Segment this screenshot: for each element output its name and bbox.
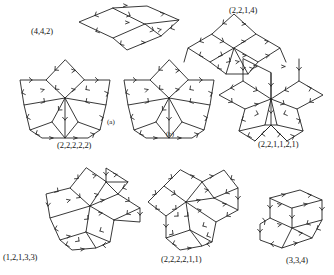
figure-334-caption: (3,3,4) xyxy=(286,256,308,265)
figure-334-graphic xyxy=(256,188,334,250)
figure-22222-a-sublabel: (a) xyxy=(107,119,115,126)
figure-221121-graphic xyxy=(215,55,327,143)
edge-arrowheads xyxy=(46,172,142,251)
figure-sheet: (4,4,2) (2,2,1,4) xyxy=(0,0,334,275)
figure-22222-b-sublabel: (b) xyxy=(166,131,174,138)
figure-222211-graphic xyxy=(146,168,254,252)
figure-442-caption: (4,4,2) xyxy=(31,27,53,36)
figure-22222-b-graphic xyxy=(116,58,222,140)
figure-2214-caption: (2,2,1,4) xyxy=(229,6,257,15)
figure-12133-caption: (1,2,1,3,3) xyxy=(3,253,37,262)
figure-12133-graphic xyxy=(44,166,158,250)
figure-442-graphic xyxy=(75,4,185,52)
figure-22222-a-graphic xyxy=(12,58,118,140)
figure-22222-caption: (2,2,2,2,2) xyxy=(57,141,91,150)
figure-222211-caption: (2,2,2,2,1,1) xyxy=(161,255,202,264)
figure-221121-caption: (2,2,1,1,2,1) xyxy=(258,140,299,149)
